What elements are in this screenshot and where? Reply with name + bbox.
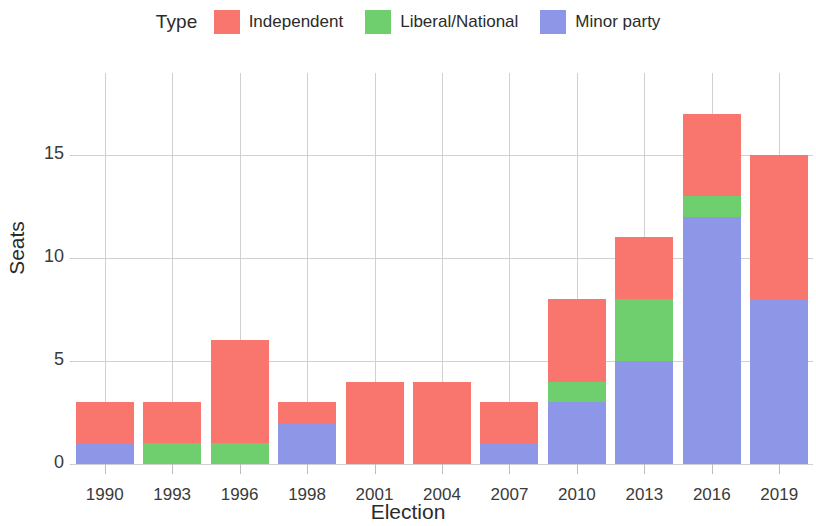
legend-item-liberal-national[interactable]: Liberal/National [365,10,518,34]
bar-segment-2019-independent[interactable] [750,155,808,299]
x-tick-mark-2007 [509,464,510,474]
bar-2013[interactable] [615,237,673,464]
legend-item-independent[interactable]: Independent [214,10,344,34]
bar-1990[interactable] [76,402,134,464]
bar-segment-2010-independent[interactable] [548,299,606,381]
x-tick-mark-1996 [240,464,241,474]
bar-segment-1998-minor-party[interactable] [278,423,336,464]
bar-2010[interactable] [548,299,606,464]
x-axis-title: Election [0,500,816,524]
chart-plot-area [71,73,813,464]
y-axis-title: Seats [5,198,29,298]
bar-2016[interactable] [683,114,741,464]
bar-segment-1990-minor-party[interactable] [76,443,134,464]
legend: Type Independent Liberal/National Minor … [0,0,816,44]
x-tick-mark-2004 [442,464,443,474]
legend-label-minor-party: Minor party [575,12,660,32]
bar-segment-2016-independent[interactable] [683,114,741,196]
bar-segment-2001-independent[interactable] [346,382,404,464]
legend-item-minor-party[interactable]: Minor party [540,10,660,34]
y-tick-label-0: 0 [18,452,64,473]
bar-segment-2007-minor-party[interactable] [480,443,538,464]
bar-2007[interactable] [480,402,538,464]
x-axis-ticks: 1990199319961998200120042007201020132016… [71,464,813,504]
x-tick-mark-2001 [375,464,376,474]
x-tick-mark-1990 [105,464,106,474]
x-tick-mark-1998 [307,464,308,474]
bar-segment-2010-liberal-national[interactable] [548,382,606,403]
bar-segment-1993-liberal-national[interactable] [143,443,201,464]
bar-segment-1996-liberal-national[interactable] [211,443,269,464]
y-tick-label-15: 15 [18,143,64,164]
x-tick-mark-2013 [644,464,645,474]
bar-2001[interactable] [346,382,404,464]
bar-segment-1998-independent[interactable] [278,402,336,423]
legend-label-liberal-national: Liberal/National [400,12,518,32]
legend-swatch-minor-party [540,10,566,34]
legend-title: Type [156,11,198,33]
bar-1993[interactable] [143,402,201,464]
x-tick-mark-2010 [577,464,578,474]
x-tick-mark-1993 [172,464,173,474]
bar-segment-1993-independent[interactable] [143,402,201,443]
bar-segment-2016-minor-party[interactable] [683,217,741,464]
bar-segment-2016-liberal-national[interactable] [683,196,741,217]
bar-segment-1990-independent[interactable] [76,402,134,443]
bar-segment-2010-minor-party[interactable] [548,402,606,464]
x-tick-mark-2019 [779,464,780,474]
bar-segment-2013-liberal-national[interactable] [615,299,673,361]
bar-2004[interactable] [413,382,471,464]
bar-2019[interactable] [750,155,808,464]
bar-1998[interactable] [278,402,336,464]
bar-segment-2013-minor-party[interactable] [615,361,673,464]
bar-segment-2004-independent[interactable] [413,382,471,464]
y-tick-label-5: 5 [18,349,64,370]
bar-segment-2019-minor-party[interactable] [750,299,808,464]
legend-swatch-independent [214,10,240,34]
bar-1996[interactable] [211,340,269,464]
bar-segment-1996-independent[interactable] [211,340,269,443]
bar-segment-2013-independent[interactable] [615,237,673,299]
bar-segment-2007-independent[interactable] [480,402,538,443]
x-tick-mark-2016 [712,464,713,474]
legend-label-independent: Independent [249,12,344,32]
legend-swatch-liberal-national [365,10,391,34]
